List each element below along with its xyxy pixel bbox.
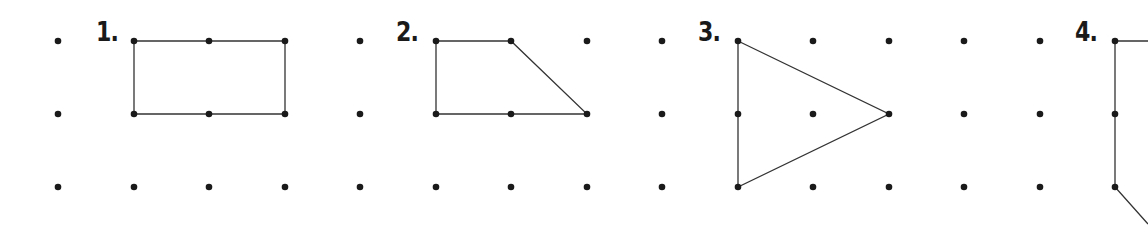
grid-dot — [282, 184, 289, 191]
grid-dot — [206, 184, 213, 191]
grid-dot — [1112, 184, 1119, 191]
figure-1-label: 1. — [96, 19, 118, 45]
grid-dot — [659, 184, 666, 191]
grid-dot — [735, 184, 742, 191]
grid-dot — [659, 38, 666, 45]
grid-dot — [1037, 111, 1044, 118]
grid-dot — [357, 111, 364, 118]
figure-2-label: 2. — [396, 19, 418, 45]
grid-dot — [282, 38, 289, 45]
grid-dot — [961, 111, 968, 118]
grid-dot — [961, 184, 968, 191]
grid-dot — [1037, 38, 1044, 45]
figure-3-label: 3. — [698, 19, 720, 45]
grid-dot — [886, 184, 893, 191]
grid-dot — [735, 111, 742, 118]
grid-dot — [357, 38, 364, 45]
grid-dot — [433, 184, 440, 191]
grid-dot — [55, 184, 62, 191]
dot-grid-diagram — [0, 0, 1148, 238]
grid-dot — [131, 38, 138, 45]
grid-dot — [810, 38, 817, 45]
figure-2-outline — [436, 41, 587, 114]
grid-dot — [55, 111, 62, 118]
grid-dot — [1112, 38, 1119, 45]
grid-dot — [1037, 184, 1044, 191]
figure-4-outline — [1115, 41, 1148, 224]
grid-dot — [1112, 111, 1119, 118]
grid-dot — [810, 111, 817, 118]
grid-dot — [131, 184, 138, 191]
grid-dot — [508, 184, 515, 191]
grid-dot — [206, 38, 213, 45]
grid-dot — [584, 184, 591, 191]
grid-dot — [508, 111, 515, 118]
grid-dot — [433, 111, 440, 118]
grid-dot — [508, 38, 515, 45]
grid-dot — [810, 184, 817, 191]
grid-dot — [433, 38, 440, 45]
shape-outlines — [134, 41, 1148, 224]
grid-dot — [584, 111, 591, 118]
grid-dot — [886, 38, 893, 45]
grid-dot — [206, 111, 213, 118]
grid-dot — [131, 111, 138, 118]
grid-dot — [55, 38, 62, 45]
grid-dot — [282, 111, 289, 118]
grid-dot — [659, 111, 666, 118]
grid-dot — [886, 111, 893, 118]
figure-1-outline — [134, 41, 285, 114]
figure-4-label: 4. — [1075, 19, 1097, 45]
grid-dot — [357, 184, 364, 191]
grid-dot — [961, 38, 968, 45]
grid-dot — [735, 38, 742, 45]
grid-dot — [584, 38, 591, 45]
